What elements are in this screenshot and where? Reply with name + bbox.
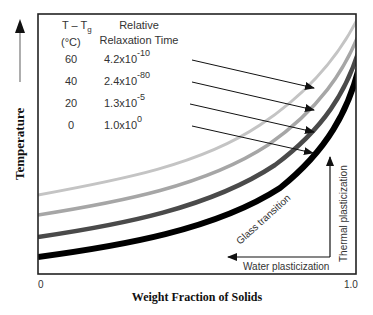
svg-text:1.0x10: 1.0x10 [104,119,137,131]
svg-text:2.4x10: 2.4x10 [104,75,137,87]
table-row-60: 60 4.2x10 -10 [65,48,150,65]
svg-text:0: 0 [68,119,74,131]
diagram-canvas: Temperature T – Tg (°C) Relative Relaxat… [0,0,373,315]
water-plasticization-label: Water plasticization [243,261,329,272]
svg-text:-80: -80 [137,70,150,80]
x-axis-label: Weight Fraction of Solids [132,290,263,304]
arrow-60-icon [192,60,314,88]
table-row-0: 0 1.0x10 0 [68,114,142,131]
pointer-arrows [190,60,314,153]
svg-text:-5: -5 [137,92,145,102]
table-header-dt: T – Tg [62,19,92,34]
table-header-relaxation-line2: Relaxation Time [100,34,179,46]
svg-text:-10: -10 [137,48,150,58]
y-axis-arrow-icon [15,19,25,82]
thermal-plasticization-label: Thermal plasticization [338,165,349,262]
curve-60c [38,14,360,195]
table-row-40: 40 2.4x10 -80 [65,70,150,87]
curves [38,14,362,257]
svg-text:1.3x10: 1.3x10 [104,97,137,109]
svg-text:4.2x10: 4.2x10 [104,53,137,65]
y-axis-label: Temperature [12,108,27,180]
x-tick-0: 0 [38,279,44,290]
svg-text:20: 20 [65,97,77,109]
table-header-dt-unit: (°C) [61,36,81,48]
table-header-relaxation-line1: Relative [119,19,159,31]
table-row-20: 20 1.3x10 -5 [65,92,145,109]
plot-frame [38,14,356,274]
svg-text:60: 60 [65,53,77,65]
svg-text:40: 40 [65,75,77,87]
arrow-20-icon [190,104,314,132]
svg-text:0: 0 [137,114,142,124]
x-tick-1: 1.0 [344,279,358,290]
